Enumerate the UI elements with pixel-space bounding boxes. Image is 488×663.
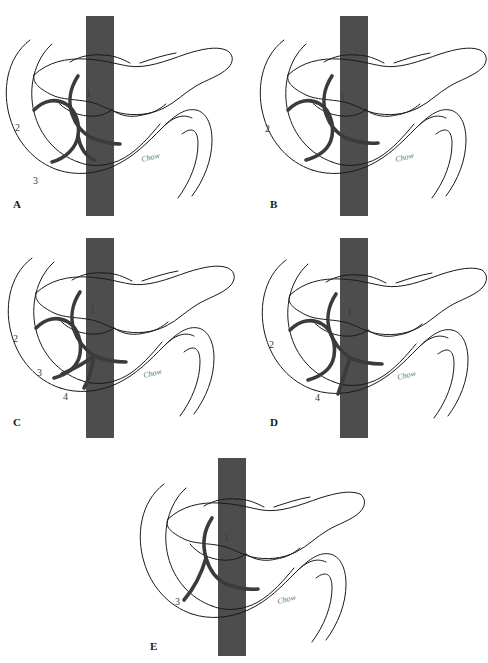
pancreas-lobulation-6 [274, 497, 310, 507]
label-d-2: 2 [269, 339, 274, 350]
artist-signature: Chow [140, 151, 161, 164]
jejunum-loop-inner [432, 130, 452, 198]
figure-panel-e: Chow E 1 3 [122, 452, 366, 663]
svg-text:Chow: Chow [396, 369, 417, 382]
pancreas-lobulation-6 [396, 273, 432, 283]
svg-text:Chow: Chow [394, 151, 415, 164]
pancreas-lobulation-6 [394, 53, 430, 63]
figure-panel-a: Chow A 1 2 3 [0, 14, 244, 230]
pancreas-lobulation-2 [114, 328, 144, 334]
svg-text:Chow: Chow [140, 151, 161, 164]
pancreas-lobulation-2 [112, 110, 142, 116]
duct-branch-to-label-3 [184, 558, 206, 600]
jejunum-loop-inner [312, 574, 332, 642]
svg-text:Chow: Chow [142, 367, 163, 380]
figure-panel-b: Chow B 1 2 [244, 14, 488, 230]
pancreas-outline [167, 492, 365, 558]
label-d-1: 1 [347, 307, 352, 318]
pancreas-outline [289, 268, 487, 334]
label-b-2: 2 [265, 123, 270, 134]
panel-letter-a: A [13, 198, 21, 210]
label-c-3: 3 [37, 367, 42, 378]
artist-signature: Chow [396, 369, 417, 382]
pancreas-lobulation-3 [396, 104, 420, 115]
label-c-2: 2 [13, 333, 18, 344]
label-b-1: 1 [340, 91, 345, 102]
jejunum-loop-inner [178, 130, 198, 198]
panel-letter-e: E [150, 640, 157, 652]
svg-text:Chow: Chow [276, 593, 297, 606]
label-d-4: 4 [315, 392, 320, 403]
running-head [0, 0, 488, 9]
jejunum-loop-inner [180, 348, 200, 416]
artist-signature: Chow [276, 593, 297, 606]
figure-panel-c: Chow C 1 2 3 4 [0, 236, 244, 452]
artist-signature: Chow [142, 367, 163, 380]
panel-letter-c: C [13, 416, 21, 428]
pancreas-lobulation-3 [142, 104, 166, 115]
label-c-1: 1 [90, 304, 95, 315]
mesenteric-vessel-bar [340, 238, 368, 438]
pancreas-lobulation-3 [144, 322, 168, 333]
label-a-1: 1 [86, 88, 91, 99]
label-e-1: 1 [224, 532, 229, 543]
label-a-3: 3 [33, 175, 38, 186]
pancreas-lobulation-2 [246, 554, 276, 560]
figure-sheet: Chow A 1 2 3 [0, 0, 488, 663]
pancreas-lobulation-2 [366, 110, 396, 116]
pancreas-lobulation-2 [368, 330, 398, 336]
figure-panel-d: Chow D 1 2 4 [244, 236, 488, 452]
mesenteric-vessel-bar [86, 238, 114, 438]
pancreas-lobulation-6 [142, 271, 178, 281]
artist-signature: Chow [394, 151, 415, 164]
accessory-duct-loop [34, 101, 79, 162]
jejunum-loop-inner [434, 350, 454, 418]
label-c-4: 4 [63, 391, 68, 402]
pancreas-lobulation-6 [140, 53, 176, 63]
label-a-2: 2 [15, 122, 20, 133]
panel-letter-d: D [270, 416, 278, 428]
panel-letter-b: B [270, 198, 277, 210]
label-e-3: 3 [175, 596, 180, 607]
